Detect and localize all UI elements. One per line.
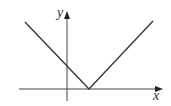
absolute-value-graph: y x	[0, 0, 171, 106]
graph-canvas	[0, 0, 171, 106]
v-shaped-curve	[25, 21, 153, 89]
y-axis-label: y	[57, 6, 63, 20]
y-axis-arrow-icon	[64, 11, 70, 19]
x-axis-label: x	[153, 89, 159, 103]
